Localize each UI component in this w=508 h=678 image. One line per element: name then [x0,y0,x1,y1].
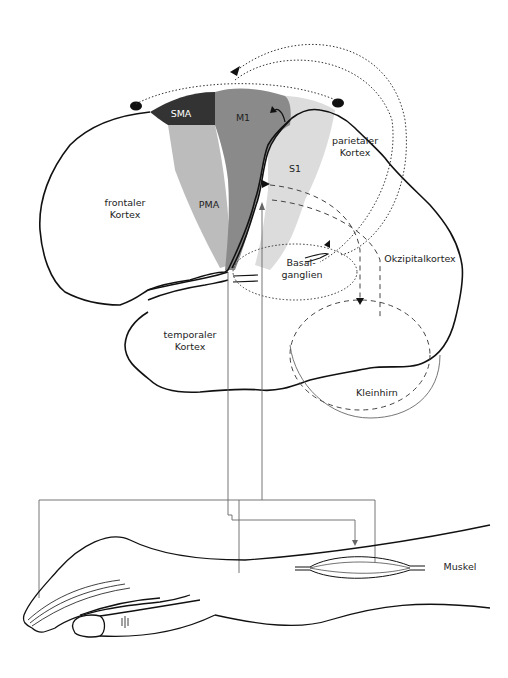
label-frontal-1: frontaler [105,197,146,208]
label-frontal-2: Kortex [110,209,141,220]
label-temporal-2: Kortex [175,341,206,352]
fingernail-marks [122,616,128,628]
label-s1: S1 [289,163,301,174]
label-parietal-2: Kortex [340,147,371,158]
label-muscle: Muskel [444,561,477,572]
label-parietal-1: parietaler [332,135,378,146]
marker-dot-left [130,102,142,111]
dotted-arrowhead-basal [324,240,330,248]
lateral-sulcus-lower [148,280,228,300]
spinal-pathways [39,205,375,598]
label-occipital: Okzipitalkortex [384,253,456,264]
label-m1: M1 [236,112,250,123]
label-pma: PMA [199,199,220,210]
label-temporal-1: temporaler [164,329,217,340]
marker-dot-right [332,99,344,108]
label-basal-2: ganglien [281,269,322,280]
muscle-illustration [295,557,425,579]
dotted-arrowhead [230,66,240,76]
motor-system-diagram: SMA M1 S1 PMA parietaler Kortex frontale… [0,0,508,678]
region-pma [168,125,230,268]
label-sma: SMA [171,108,192,119]
lateral-sulcus [148,272,228,290]
label-basal-1: Basal- [286,257,315,268]
label-cerebellum: Kleinhirn [356,387,398,398]
arm-illustration [23,525,490,637]
